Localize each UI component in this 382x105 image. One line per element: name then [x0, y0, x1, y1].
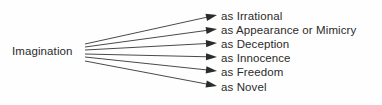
- edge-line: [85, 61, 209, 85]
- diagram-canvas: Imagination as Irrationalas Appearance o…: [0, 0, 382, 105]
- target-node-label[interactable]: as Irrational: [221, 9, 282, 23]
- arrow-head-icon: [205, 14, 217, 21]
- target-node-label[interactable]: as Novel: [221, 80, 267, 94]
- edge-line: [85, 30, 209, 47]
- arrow-head-icon: [206, 53, 217, 60]
- edge-line: [85, 57, 209, 70]
- target-node-label[interactable]: as Freedom: [221, 65, 283, 79]
- target-node-label[interactable]: as Innocence: [221, 51, 291, 65]
- arrow-head-icon: [206, 40, 217, 47]
- arrow-head-icon: [206, 66, 217, 73]
- arrow-head-icon: [206, 27, 217, 34]
- edge-line: [85, 43, 209, 50]
- edge-line: [85, 54, 209, 57]
- target-node-label[interactable]: as Deception: [221, 37, 289, 51]
- arrow-head-icon: [206, 80, 217, 87]
- target-node-label[interactable]: as Appearance or Mimicry: [221, 23, 356, 37]
- source-node-imagination[interactable]: Imagination: [12, 44, 73, 58]
- edge-line: [85, 17, 209, 44]
- arrowhead-group: [205, 14, 217, 88]
- edge-group: [85, 17, 209, 85]
